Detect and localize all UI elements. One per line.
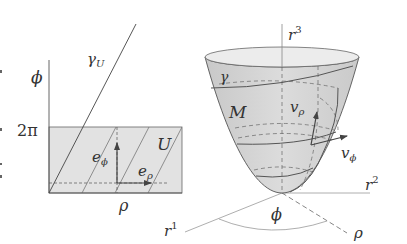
right-panel: r3 r2 r1 γ M vρ vϕ ϕ ρ: [164, 24, 379, 242]
rho-axis-label: ρ: [118, 196, 129, 215]
rho-radial-dashed: [282, 193, 347, 233]
left-edge-marks: [0, 70, 2, 178]
r3-label: r3: [288, 24, 302, 44]
diagram-svg: ϕ 2π ρ γU U eϕ eρ: [0, 0, 407, 244]
r1-label: r1: [164, 220, 178, 240]
left-panel: ϕ 2π ρ γU U eϕ eρ: [17, 24, 182, 215]
surface-m-label: M: [228, 102, 247, 122]
radial-rho-label: ρ: [353, 224, 363, 242]
tick-2pi-label: 2π: [17, 121, 38, 140]
r2-label: r2: [365, 174, 379, 194]
gamma-label: γ: [220, 69, 229, 85]
angle-phi-label: ϕ: [271, 205, 282, 224]
v-phi-label: vϕ: [341, 144, 356, 163]
gamma-u-label: γU: [87, 50, 105, 69]
r1-axis: [185, 193, 282, 232]
region-u-label: U: [157, 134, 172, 154]
phi-axis-label: ϕ: [31, 67, 43, 87]
diagram-canvas: ϕ 2π ρ γU U eϕ eρ: [0, 0, 407, 244]
